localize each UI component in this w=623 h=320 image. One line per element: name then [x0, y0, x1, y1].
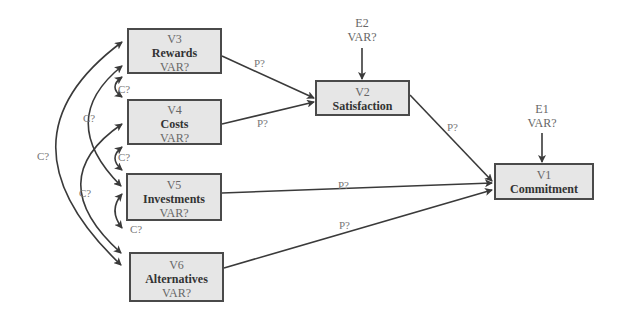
- node-v6-alternatives: V6 Alternatives VAR?: [129, 252, 224, 302]
- path-v4-v2: [222, 102, 314, 124]
- label-path-v6-v1: P?: [339, 219, 350, 231]
- path-v6-v1: [224, 190, 492, 268]
- label-cov-v5-v6: C?: [130, 223, 142, 235]
- label-cov-v3-v4: C?: [118, 83, 130, 95]
- node-label: Alternatives: [131, 272, 222, 286]
- node-variance: VAR?: [129, 60, 220, 74]
- node-v2-satisfaction: V2 Satisfaction: [315, 80, 410, 116]
- node-v1-commitment: V1 Commitment: [494, 163, 594, 200]
- node-label: Satisfaction: [317, 99, 408, 113]
- node-label: Costs: [129, 117, 220, 131]
- label-path-v5-v1: P?: [338, 179, 349, 191]
- label-cov-v3-v6: C?: [37, 150, 49, 162]
- diagram-connectors: [0, 0, 623, 320]
- label-path-v3-v2: P?: [254, 57, 265, 69]
- node-label: Investments: [128, 192, 220, 206]
- node-variance: VAR?: [129, 131, 220, 145]
- node-v3-rewards: V3 Rewards VAR?: [127, 28, 222, 74]
- label-cov-v4-v6: C?: [79, 187, 91, 199]
- cov-v3-v5: [88, 66, 122, 186]
- node-id: V1: [496, 168, 592, 182]
- node-variance: VAR?: [128, 206, 220, 220]
- error-id: E2: [337, 16, 387, 30]
- node-v5-investments: V5 Investments VAR?: [126, 173, 222, 221]
- error-e2: E2 VAR?: [337, 16, 387, 44]
- label-path-v2-v1: P?: [447, 121, 458, 133]
- error-id: E1: [517, 102, 567, 116]
- node-id: V6: [131, 258, 222, 272]
- path-v3-v2: [222, 56, 314, 98]
- node-v4-costs: V4 Costs VAR?: [127, 99, 222, 145]
- label-path-v4-v2: P?: [257, 117, 268, 129]
- node-label: Rewards: [129, 46, 220, 60]
- error-variance: VAR?: [337, 30, 387, 44]
- cov-v5-v6: [115, 194, 122, 228]
- path-v2-v1: [410, 95, 492, 181]
- node-id: V3: [129, 32, 220, 46]
- node-id: V4: [129, 103, 220, 117]
- node-id: V2: [317, 85, 408, 99]
- error-e1: E1 VAR?: [517, 102, 567, 130]
- node-label: Commitment: [496, 182, 592, 196]
- error-variance: VAR?: [517, 116, 567, 130]
- node-id: V5: [128, 178, 220, 192]
- label-cov-v4-v5: C?: [118, 151, 130, 163]
- label-cov-v3-v5: C?: [83, 112, 95, 124]
- node-variance: VAR?: [131, 286, 222, 300]
- path-v5-v1: [222, 183, 492, 193]
